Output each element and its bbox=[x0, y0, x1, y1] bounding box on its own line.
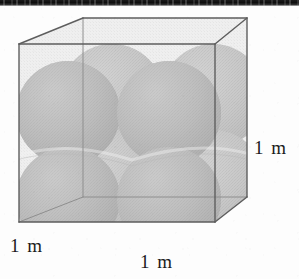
dimension-label-width: 1 m bbox=[140, 252, 174, 271]
figure-container: 1 m 1 m 1 m bbox=[0, 0, 299, 279]
dimension-label-height: 1 m bbox=[254, 138, 288, 157]
dimension-label-depth: 1 m bbox=[10, 236, 44, 255]
sphere-group bbox=[16, 18, 265, 251]
